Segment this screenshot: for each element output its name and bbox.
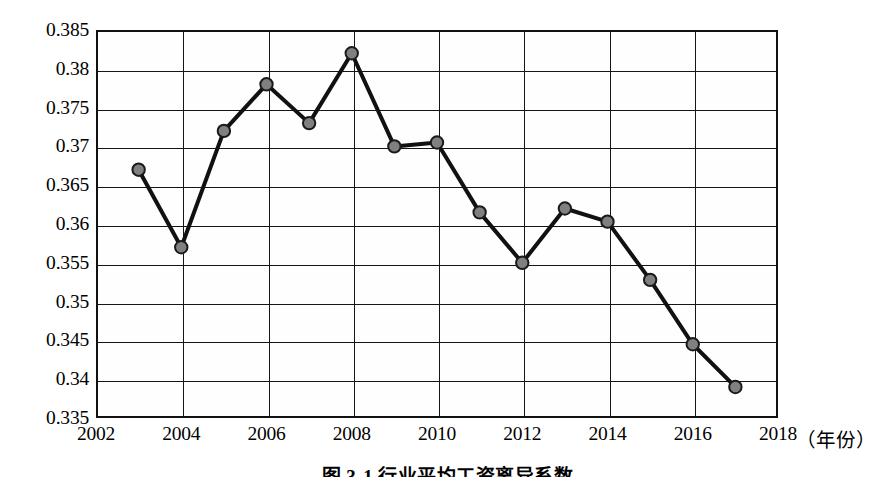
data-point-marker [132,163,144,175]
data-point-marker [687,338,699,350]
y-axis-tick-label: 0.365 [46,175,89,195]
x-axis-tick-label: 2010 [397,424,477,444]
y-axis-tick-label: 0.385 [46,20,89,40]
data-point-marker [473,206,485,218]
x-axis-tick-label: 2016 [653,424,733,444]
data-point-marker [729,381,741,393]
data-point-marker [388,140,400,152]
y-axis-tick-label: 0.345 [46,330,89,350]
data-point-marker [601,215,613,227]
series-line [139,53,736,387]
x-axis-tick-label: 2014 [568,424,648,444]
y-axis-tick-label: 0.36 [56,214,89,234]
y-axis-tick-label: 0.34 [56,369,89,389]
figure-container: 0.3350.340.3450.350.3550.360.3650.370.37… [0,0,895,477]
x-axis-tick-label: 2006 [227,424,307,444]
figure-caption: 图 3-1 行业平均工资离异系数 [0,461,895,477]
data-point-marker [516,257,528,269]
data-point-marker [218,125,230,137]
data-point-marker [559,202,571,214]
data-point-marker [303,117,315,129]
x-axis-unit-label: （年份） [796,424,876,453]
series-markers [132,47,741,393]
data-point-marker [175,241,187,253]
data-point-marker [346,47,358,59]
y-axis-tick-label: 0.355 [46,253,89,273]
data-point-marker [260,78,272,90]
y-axis-tick-label: 0.37 [56,136,89,156]
x-axis-tick-label: 2002 [56,424,136,444]
y-axis-tick-label: 0.38 [56,59,89,79]
y-axis-tick-label: 0.35 [56,292,89,312]
x-axis-tick-label: 2012 [482,424,562,444]
x-axis-tick-label: 2004 [141,424,221,444]
data-point-marker [644,274,656,286]
x-axis-tick-label: 2008 [312,424,392,444]
y-axis-tick-label: 0.375 [46,98,89,118]
data-point-marker [431,136,443,148]
data-series-layer [96,30,778,418]
